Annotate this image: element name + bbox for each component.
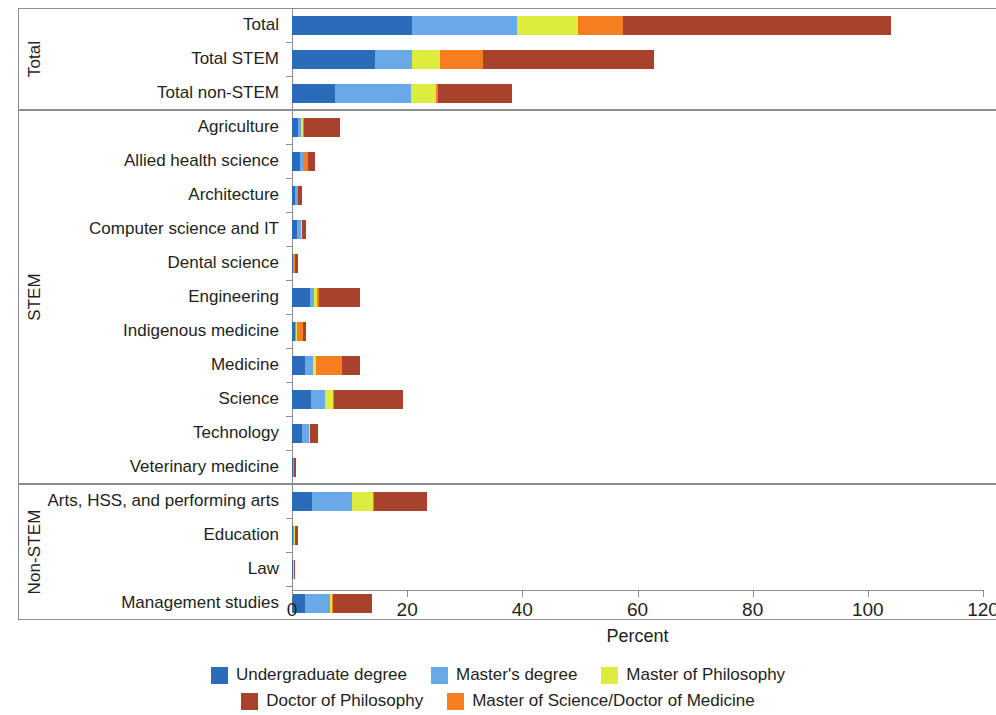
legend-swatch xyxy=(241,693,258,710)
y-axis-tick xyxy=(286,586,292,587)
bar-segment[interactable] xyxy=(292,288,310,307)
x-axis-tick-label: 60 xyxy=(627,599,648,621)
bar-segment[interactable] xyxy=(292,492,312,511)
stacked-bar[interactable] xyxy=(292,492,427,511)
x-axis-tick xyxy=(983,590,984,597)
bar-segment[interactable] xyxy=(375,50,412,69)
bar-segment[interactable] xyxy=(483,50,653,69)
bar-segment[interactable] xyxy=(335,84,411,103)
bar-segment[interactable] xyxy=(292,356,305,375)
stacked-bar[interactable] xyxy=(292,458,296,477)
bar-segment[interactable] xyxy=(292,50,375,69)
y-axis-tick xyxy=(286,484,292,485)
bar-segment[interactable] xyxy=(302,424,309,443)
bar-segment[interactable] xyxy=(305,356,313,375)
bar-segment[interactable] xyxy=(352,492,373,511)
legend-item[interactable]: Undergraduate degree xyxy=(211,665,407,685)
legend-item[interactable]: Master of Science/Doctor of Medicine xyxy=(447,691,755,711)
bar-segment[interactable] xyxy=(308,152,315,171)
bar-segment[interactable] xyxy=(334,390,403,409)
stacked-bar[interactable] xyxy=(292,220,306,239)
stacked-bar[interactable] xyxy=(292,152,315,171)
bar-row: Medicine xyxy=(292,348,983,382)
bar-segment[interactable] xyxy=(312,492,352,511)
legend-label: Master of Science/Doctor of Medicine xyxy=(472,691,755,711)
legend-label: Doctor of Philosophy xyxy=(266,691,423,711)
stacked-bar[interactable] xyxy=(292,424,318,443)
legend-label: Master's degree xyxy=(456,665,577,685)
stacked-bar[interactable] xyxy=(292,322,306,341)
bar-segment[interactable] xyxy=(304,118,340,137)
bar-segment[interactable] xyxy=(342,356,360,375)
bar-segment[interactable] xyxy=(319,288,360,307)
y-axis-label: Law xyxy=(248,552,279,586)
bar-segment[interactable] xyxy=(325,390,333,409)
bar-row: Total xyxy=(292,8,983,42)
bar-segment[interactable] xyxy=(292,152,300,171)
bar-segment[interactable] xyxy=(294,560,295,579)
y-axis-tick xyxy=(286,518,292,519)
stacked-bar[interactable] xyxy=(292,288,360,307)
y-axis-tick xyxy=(286,314,292,315)
stacked-bar[interactable] xyxy=(292,50,654,69)
legend-item[interactable]: Doctor of Philosophy xyxy=(241,691,423,711)
bar-segment[interactable] xyxy=(294,458,296,477)
stacked-bar[interactable] xyxy=(292,118,340,137)
bar-segment[interactable] xyxy=(311,390,325,409)
stacked-bar[interactable] xyxy=(292,84,512,103)
y-axis-label: Dental science xyxy=(167,246,279,280)
y-axis-label: Veterinary medicine xyxy=(130,450,279,484)
bar-row: Arts, HSS, and performing arts xyxy=(292,484,983,518)
y-axis-label: Arts, HSS, and performing arts xyxy=(48,484,279,518)
bar-segment[interactable] xyxy=(412,50,440,69)
bar-row: Allied health science xyxy=(292,144,983,178)
bar-segment[interactable] xyxy=(292,16,412,35)
y-axis-label: Architecture xyxy=(188,178,279,212)
bar-segment[interactable] xyxy=(295,254,298,273)
y-axis-label: Agriculture xyxy=(198,110,279,144)
y-axis-tick xyxy=(286,416,292,417)
stacked-bar[interactable] xyxy=(292,356,360,375)
bar-segment[interactable] xyxy=(302,220,305,239)
y-axis-tick xyxy=(286,552,292,553)
stacked-bar[interactable] xyxy=(292,560,295,579)
stacked-bar[interactable] xyxy=(292,594,372,613)
stacked-bar[interactable] xyxy=(292,526,298,545)
bar-segment[interactable] xyxy=(412,16,517,35)
bar-segment[interactable] xyxy=(295,526,298,545)
bar-segment[interactable] xyxy=(440,50,483,69)
bar-segment[interactable] xyxy=(411,84,436,103)
y-axis-tick xyxy=(286,110,292,111)
bar-segment[interactable] xyxy=(292,424,302,443)
bar-segment[interactable] xyxy=(333,594,372,613)
group-label: STEM xyxy=(18,110,52,484)
plot-area: TotalTotal STEMTotal non-STEMAgriculture… xyxy=(292,8,983,590)
group-label-text: Total xyxy=(25,41,45,77)
bar-segment[interactable] xyxy=(305,594,330,613)
bar-segment[interactable] xyxy=(517,16,578,35)
bar-segment[interactable] xyxy=(298,186,302,205)
bar-segment[interactable] xyxy=(374,492,426,511)
legend-item[interactable]: Master of Philosophy xyxy=(601,665,785,685)
bar-segment[interactable] xyxy=(310,424,317,443)
bar-segment[interactable] xyxy=(316,356,342,375)
bar-segment[interactable] xyxy=(578,16,623,35)
legend-label: Master of Philosophy xyxy=(626,665,785,685)
stacked-bar[interactable] xyxy=(292,390,403,409)
group-label-text: Non-STEM xyxy=(25,510,45,595)
x-axis-title: Percent xyxy=(292,626,983,647)
bar-segment[interactable] xyxy=(292,390,311,409)
legend-swatch xyxy=(447,693,464,710)
bar-segment[interactable] xyxy=(292,84,335,103)
bar-segment[interactable] xyxy=(438,84,512,103)
stacked-bar[interactable] xyxy=(292,16,891,35)
legend-item[interactable]: Master's degree xyxy=(431,665,577,685)
legend: Undergraduate degreeMaster's degreeMaste… xyxy=(0,662,996,714)
stacked-bar[interactable] xyxy=(292,186,302,205)
stacked-bar[interactable] xyxy=(292,254,298,273)
y-axis-label: Total non-STEM xyxy=(157,76,279,110)
bar-segment[interactable] xyxy=(303,322,306,341)
bar-segment[interactable] xyxy=(623,16,891,35)
x-axis-tick-label: 40 xyxy=(512,599,533,621)
y-axis-label: Technology xyxy=(193,416,279,450)
